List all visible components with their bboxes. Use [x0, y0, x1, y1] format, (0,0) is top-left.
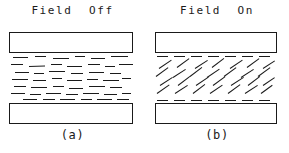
- molecule-dash: [33, 80, 46, 81]
- molecule-dash: [31, 87, 47, 88]
- panel-a-caption: (a): [0, 128, 145, 142]
- molecule-dash: [228, 84, 241, 94]
- molecule-dash: [178, 76, 191, 86]
- molecule-dash: [174, 100, 185, 101]
- molecule-dash: [83, 93, 99, 94]
- liquid-crystal-figure: Field Off (a) Field On (b): [0, 0, 289, 153]
- molecule-dash: [261, 85, 273, 94]
- panel-a-liquid-crystal-cell: [9, 54, 133, 103]
- molecule-dash: [242, 56, 253, 57]
- panel-a-title: Field Off: [0, 4, 145, 17]
- molecule-dash: [210, 85, 223, 94]
- molecule-dash: [34, 73, 44, 74]
- molecule-dash: [191, 56, 202, 57]
- molecule-dash: [91, 58, 105, 59]
- molecule-dash: [122, 78, 131, 79]
- molecule-dash: [75, 56, 85, 57]
- molecule-dash: [119, 64, 133, 65]
- molecule-dash: [191, 100, 202, 101]
- molecule-dash: [122, 93, 131, 94]
- molecule-dash: [87, 79, 98, 80]
- molecule-dash: [14, 86, 26, 87]
- molecule-dash: [245, 85, 258, 94]
- molecule-dash: [190, 67, 203, 77]
- molecule-dash: [175, 85, 188, 94]
- panel-b-liquid-crystal-cell: [155, 54, 277, 103]
- molecule-dash: [173, 69, 186, 78]
- molecule-dash: [103, 80, 119, 81]
- panel-b-top-electrode: [155, 32, 277, 53]
- molecule-dash: [13, 57, 28, 58]
- molecule-dash: [225, 100, 236, 101]
- molecule-dash: [225, 56, 236, 57]
- molecule-dash: [46, 93, 61, 94]
- molecule-dash: [259, 100, 270, 101]
- molecule-dash: [89, 86, 105, 87]
- panel-a-bottom-electrode: [9, 103, 133, 124]
- panel-a-top-electrode: [9, 32, 133, 53]
- molecule-dash: [43, 99, 55, 100]
- molecule-dash: [248, 76, 261, 86]
- molecule-dash: [69, 88, 83, 89]
- molecule-dash: [208, 56, 219, 57]
- molecule-dash: [67, 80, 82, 81]
- molecule-dash: [110, 87, 122, 88]
- molecule-dash: [67, 66, 82, 67]
- molecule-dash: [213, 76, 226, 86]
- panel-field-on: Field On (b): [145, 0, 289, 153]
- molecule-dash: [51, 64, 62, 65]
- panel-b-bottom-electrode: [155, 103, 277, 124]
- molecule-dash: [263, 77, 275, 86]
- molecule-dash: [104, 94, 117, 95]
- molecule-dash: [97, 99, 112, 100]
- molecule-dash: [156, 67, 169, 77]
- molecule-dash: [247, 58, 260, 68]
- molecule-dash: [89, 72, 104, 73]
- molecule-dash: [30, 94, 41, 95]
- panel-b-title: Field On: [145, 4, 289, 17]
- molecule-dash: [53, 58, 69, 59]
- panel-field-off: Field Off (a): [0, 0, 145, 153]
- molecule-dash: [174, 56, 185, 57]
- molecule-dash: [88, 64, 100, 65]
- panel-b-caption: (b): [145, 128, 289, 142]
- molecule-dash: [110, 73, 121, 74]
- molecule-dash: [208, 100, 219, 101]
- molecule-dash: [49, 71, 65, 72]
- molecule-dash: [177, 58, 190, 68]
- molecule-dash: [242, 100, 253, 101]
- molecule-dash: [15, 72, 29, 73]
- molecule-dash: [117, 99, 129, 100]
- molecule-dash: [11, 93, 25, 94]
- molecule-dash: [66, 94, 78, 95]
- molecule-dash: [52, 78, 62, 79]
- molecule-dash: [160, 77, 173, 86]
- molecule-dash: [60, 99, 75, 100]
- molecule-dash: [71, 73, 83, 74]
- molecule-dash: [193, 84, 206, 94]
- molecule-dash: [105, 66, 115, 67]
- molecule-dash: [11, 64, 23, 65]
- molecule-dash: [23, 99, 37, 100]
- molecule-dash: [12, 79, 28, 80]
- molecule-dash: [111, 56, 128, 57]
- molecule-dash: [53, 86, 64, 87]
- molecule-dash: [81, 99, 92, 100]
- molecule-dash: [35, 56, 46, 57]
- molecule-dash: [157, 56, 168, 57]
- molecule-dash: [259, 56, 270, 57]
- molecule-dash: [157, 100, 168, 101]
- molecule-dash: [157, 84, 170, 93]
- molecule-dash: [212, 58, 225, 68]
- molecule-dash: [29, 65, 45, 67]
